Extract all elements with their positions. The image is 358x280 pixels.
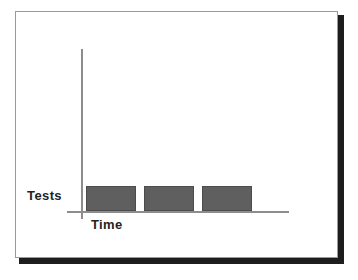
x-axis-line: [67, 211, 289, 213]
x-axis-label: Time: [91, 217, 123, 232]
figure-frame: Tests Time: [15, 11, 338, 258]
bar-3: [202, 186, 252, 211]
bar-2: [144, 186, 194, 211]
y-axis-line: [81, 49, 83, 219]
bar-1: [86, 186, 136, 211]
plot-area: Tests Time: [16, 12, 337, 257]
y-axis-label: Tests: [27, 188, 62, 203]
